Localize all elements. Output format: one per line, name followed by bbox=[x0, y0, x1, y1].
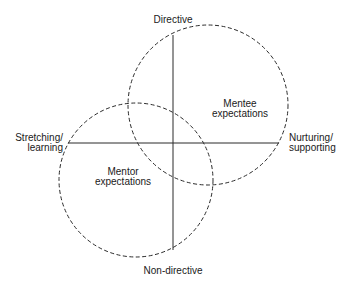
axis-label-stretching-learning: Stretching/ learning bbox=[2, 133, 63, 153]
axis-label-directive: Directive bbox=[143, 15, 203, 25]
axis-label-nurturing-supporting: Nurturing/ supporting bbox=[289, 133, 349, 153]
axis-label-non-directive: Non-directive bbox=[133, 266, 213, 276]
mentee-expectations-label: Mentee expectations bbox=[200, 99, 280, 119]
mentor-expectations-label: Mentor expectations bbox=[83, 167, 163, 187]
